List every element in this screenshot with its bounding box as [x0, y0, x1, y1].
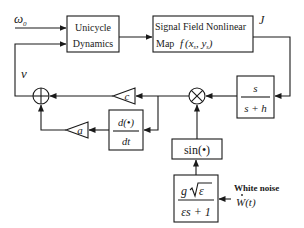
gain-c-block: c [113, 88, 135, 104]
noise-filter-block: g ε εs + 1 [174, 175, 218, 222]
highpass-denominator: s + h [244, 102, 267, 114]
derivative-block: d(•) dt [109, 110, 143, 150]
gain-a-block: a [66, 122, 88, 138]
sine-label: sin(•) [184, 143, 210, 157]
derivative-denominator: dt [122, 136, 131, 147]
signal-field-map-label: Map [156, 38, 174, 49]
summing-junction [33, 88, 49, 104]
unicycle-dynamics-block: Unicycle Dynamics [67, 16, 119, 52]
noise-filter-denominator: εs + 1 [181, 205, 211, 219]
derivative-numerator: d(•) [118, 117, 134, 129]
white-noise-label: White noise [234, 183, 279, 193]
white-noise-symbol: W(t) [236, 196, 256, 209]
noise-filter-gain: g [181, 184, 187, 198]
gain-a-label: a [77, 124, 83, 136]
dot-accent-icon [241, 194, 243, 196]
a-to-sum-arrow [41, 105, 66, 130]
sine-block: sin(•) [172, 139, 222, 159]
highpass-numerator: s [253, 82, 257, 94]
multiplier-to-derivative-arrow [144, 96, 158, 130]
multiplier-junction [189, 88, 205, 104]
signal-field-func: f(xs, ys) [180, 37, 213, 50]
white-noise-input: White noise W(t) [219, 183, 279, 209]
unicycle-line1: Unicycle [75, 22, 112, 33]
J-label: J [259, 13, 265, 27]
unicycle-line2: Dynamics [73, 38, 114, 49]
extremum-seeking-block-diagram: ω 0 Unicycle Dynamics Signal Field Nonli… [0, 0, 304, 228]
omega0-subscript: 0 [23, 20, 27, 28]
noise-filter-eps: ε [199, 184, 204, 198]
v-label: v [21, 66, 27, 81]
omega0-label: ω [14, 11, 23, 26]
signal-field-map-block: Signal Field Nonlinear Map f(xs, ys) [153, 16, 253, 52]
gain-c-label: c [125, 90, 130, 102]
signal-field-line1: Signal Field Nonlinear [155, 21, 247, 32]
omega0-input: ω 0 [14, 11, 66, 28]
highpass-filter-block: s s + h [237, 76, 274, 118]
